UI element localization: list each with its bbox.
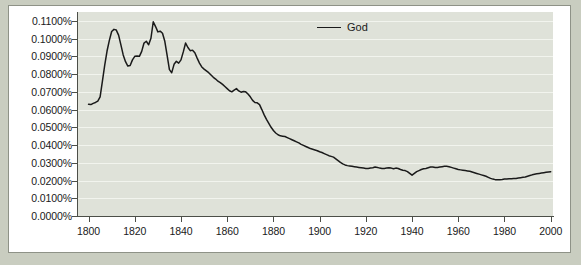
y-tick-label: 0.1100% xyxy=(14,16,72,26)
x-tick-mark xyxy=(181,217,182,222)
y-tick-mark xyxy=(72,92,77,93)
y-tick-mark xyxy=(72,181,77,182)
x-tick-mark xyxy=(227,217,228,222)
y-tick-label-row: 0.0300% xyxy=(9,158,72,168)
x-tick-label: 1900 xyxy=(300,225,340,237)
x-tick-label: 1980 xyxy=(484,225,524,237)
x-tick-mark xyxy=(273,217,274,222)
x-tick-label: 1960 xyxy=(438,225,478,237)
y-tick-label-row: 0.0200% xyxy=(9,176,72,186)
y-tick-label-row: 0.0900% xyxy=(9,51,72,61)
legend-label-god: God xyxy=(347,21,368,33)
y-tick-mark xyxy=(72,56,77,57)
legend-line-swatch-god xyxy=(317,27,341,28)
screenshot-root: 0.1100%0.1000%0.0900%0.0800%0.0700%0.060… xyxy=(0,0,581,265)
x-tick-mark xyxy=(458,217,459,222)
y-tick-mark xyxy=(72,21,77,22)
x-tick-mark xyxy=(320,217,321,222)
y-tick-mark xyxy=(72,216,77,217)
y-tick-label: 0.0100% xyxy=(14,193,72,203)
plot-area xyxy=(77,12,553,216)
y-tick-label-row: 0.1100% xyxy=(9,16,72,26)
series-god-line xyxy=(77,12,553,216)
x-tick-mark xyxy=(366,217,367,222)
x-tick-label: 1860 xyxy=(207,225,247,237)
x-axis-line xyxy=(77,216,554,217)
y-tick-label: 0.0700% xyxy=(14,87,72,97)
y-tick-label-row: 0.0600% xyxy=(9,105,72,115)
y-tick-mark xyxy=(72,145,77,146)
y-tick-mark xyxy=(72,74,77,75)
y-tick-mark xyxy=(72,39,77,40)
y-tick-label: 0.0800% xyxy=(14,69,72,79)
y-tick-mark xyxy=(72,163,77,164)
y-tick-label-row: 0.0000% xyxy=(9,211,72,221)
x-tick-label: 1920 xyxy=(346,225,386,237)
y-tick-label-row: 0.0800% xyxy=(9,69,72,79)
y-tick-label: 0.0200% xyxy=(14,176,72,186)
y-tick-mark xyxy=(72,198,77,199)
y-tick-label: 0.1000% xyxy=(14,34,72,44)
chart-plot-wrapper: 0.1100%0.1000%0.0900%0.0800%0.0700%0.060… xyxy=(9,6,570,252)
chart-panel: 0.1100%0.1000%0.0900%0.0800%0.0700%0.060… xyxy=(8,5,571,253)
y-tick-label-row: 0.1000% xyxy=(9,34,72,44)
y-tick-label: 0.0000% xyxy=(14,211,72,221)
y-tick-label-row: 0.0500% xyxy=(9,122,72,132)
y-tick-label-row: 0.0100% xyxy=(9,193,72,203)
x-tick-label: 1940 xyxy=(392,225,432,237)
x-tick-mark xyxy=(89,217,90,222)
x-tick-label: 1800 xyxy=(69,225,109,237)
y-tick-label: 0.0900% xyxy=(14,51,72,61)
x-tick-label: 2000 xyxy=(531,225,571,237)
y-tick-label: 0.0500% xyxy=(14,122,72,132)
x-tick-label: 1880 xyxy=(253,225,293,237)
chart-legend: God xyxy=(317,21,368,33)
y-tick-label-row: 0.0400% xyxy=(9,140,72,150)
y-axis-line xyxy=(77,12,78,217)
y-tick-mark xyxy=(72,110,77,111)
y-tick-label: 0.0600% xyxy=(14,105,72,115)
x-tick-label: 1820 xyxy=(115,225,155,237)
y-tick-mark xyxy=(72,127,77,128)
y-tick-label-row: 0.0700% xyxy=(9,87,72,97)
x-tick-label: 1840 xyxy=(161,225,201,237)
x-tick-mark xyxy=(504,217,505,222)
x-tick-mark xyxy=(412,217,413,222)
y-tick-label: 0.0300% xyxy=(14,158,72,168)
y-tick-label: 0.0400% xyxy=(14,140,72,150)
x-tick-mark xyxy=(135,217,136,222)
x-tick-mark xyxy=(551,217,552,222)
